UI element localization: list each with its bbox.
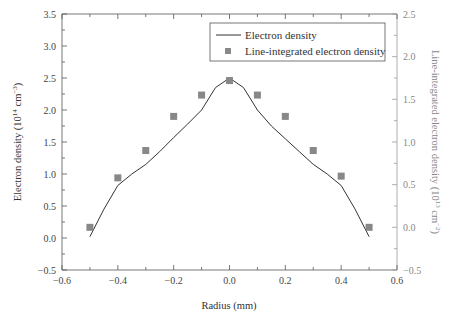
y-axis-left: −0.50.00.51.01.52.02.53.03.5	[38, 9, 67, 276]
x-tick-label: −0.2	[165, 275, 183, 286]
y-axis-left-title: Electron density (1014 cm−3)	[11, 82, 24, 201]
line-integrated-marker	[170, 113, 177, 120]
plot-series	[86, 77, 372, 237]
y-tick-label: 3.0	[44, 41, 57, 52]
line-integrated-marker	[198, 92, 205, 99]
y-tick-label: 0.0	[44, 233, 57, 244]
y-tick-label: −0.5	[38, 265, 56, 276]
legend: Electron density Line-integrated electro…	[210, 23, 386, 61]
chart-canvas: −0.6−0.4−0.20.00.20.40.6 −0.50.00.51.01.…	[0, 0, 451, 319]
line-integrated-marker	[226, 77, 233, 84]
line-integrated-marker	[86, 224, 93, 231]
x-axis-title: Radius (mm)	[201, 300, 257, 312]
x-tick-label: 0.2	[279, 275, 292, 286]
x-tick-label: −0.6	[53, 275, 71, 286]
y-right-tick-label: 2.0	[403, 51, 416, 62]
y-axis-right: −0.50.00.51.01.52.02.5	[392, 9, 421, 276]
y-tick-label: 1.0	[44, 169, 57, 180]
y-right-tick-label: 1.5	[403, 94, 416, 105]
line-integrated-marker	[366, 224, 373, 231]
y-tick-label: 0.5	[44, 201, 57, 212]
legend-square-marker-icon	[225, 48, 231, 54]
y-tick-label: 1.5	[44, 137, 57, 148]
legend-label-line-integrated: Line-integrated electron density	[245, 45, 386, 57]
y-right-tick-label: 1.0	[403, 137, 416, 148]
line-integrated-marker	[142, 147, 149, 154]
legend-label-electron-density: Electron density	[245, 29, 317, 41]
y-right-tick-label: 0.5	[403, 179, 416, 190]
x-tick-label: −0.4	[109, 275, 127, 286]
electron-density-line	[90, 78, 369, 237]
x-tick-label: 0.0	[223, 275, 236, 286]
y-right-tick-label: −0.5	[403, 265, 421, 276]
line-integrated-marker	[114, 174, 121, 181]
line-integrated-marker	[310, 147, 317, 154]
y-tick-label: 2.0	[44, 105, 57, 116]
y-tick-label: 3.5	[44, 9, 57, 20]
y-tick-label: 2.5	[44, 73, 57, 84]
x-tick-label: 0.4	[335, 275, 348, 286]
y-axis-right-title: Line-integrated electron density (1013 c…	[429, 50, 442, 235]
line-integrated-marker	[254, 92, 261, 99]
y-right-tick-label: 2.5	[403, 9, 416, 20]
line-integrated-marker	[338, 173, 345, 180]
x-tick-label: 0.6	[391, 275, 404, 286]
y-right-tick-label: 0.0	[403, 222, 416, 233]
line-integrated-marker	[282, 113, 289, 120]
